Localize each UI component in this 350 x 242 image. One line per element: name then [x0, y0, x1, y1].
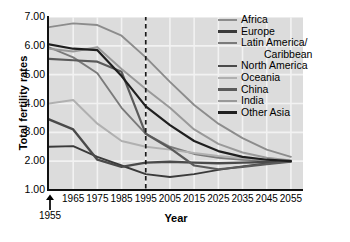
- x-axis-title: Year: [49, 212, 303, 224]
- x-tick-label: 2055: [276, 193, 306, 205]
- legend-item-other-asia[interactable]: Other Asia: [218, 107, 350, 119]
- legend-color-swatch: [218, 111, 237, 113]
- legend-item-oceania[interactable]: Oceania: [218, 72, 350, 84]
- legend-color-swatch: [218, 77, 237, 79]
- x-axis-line: [47, 189, 303, 191]
- legend-item-label: India: [241, 95, 264, 107]
- chart-legend: AfricaEuropeLatin America/CaribbeanNorth…: [218, 14, 350, 118]
- legend-item-africa[interactable]: Africa: [218, 14, 350, 26]
- legend-color-swatch: [218, 100, 237, 102]
- legend-color-swatch: [218, 42, 237, 44]
- start-year-label: 1955: [28, 210, 72, 221]
- y-tick-label: 1.00: [1, 184, 45, 195]
- legend-item-label: Other Asia: [241, 107, 290, 119]
- legend-item-india[interactable]: India: [218, 95, 350, 107]
- y-axis-line: [47, 16, 49, 191]
- y-axis-title: Total fertility rates: [17, 33, 29, 173]
- x-axis-tick-labels: 1965197519851995200520152025203520452055: [49, 193, 311, 207]
- legend-item-label: Africa: [241, 14, 268, 26]
- legend-item-label: Oceania: [241, 72, 280, 84]
- legend-item-north-america[interactable]: North America: [218, 60, 350, 72]
- fertility-rates-chart: 1.002.003.004.005.006.007.00 19651975198…: [0, 0, 350, 242]
- legend-color-swatch: [218, 30, 237, 32]
- start-year-arrow-icon: [43, 194, 57, 210]
- legend-color-swatch: [218, 65, 237, 67]
- legend-color-swatch: [218, 19, 237, 21]
- legend-item-china[interactable]: China: [218, 84, 350, 96]
- legend-color-swatch: [218, 88, 237, 90]
- y-tick-label: 7.00: [1, 11, 45, 22]
